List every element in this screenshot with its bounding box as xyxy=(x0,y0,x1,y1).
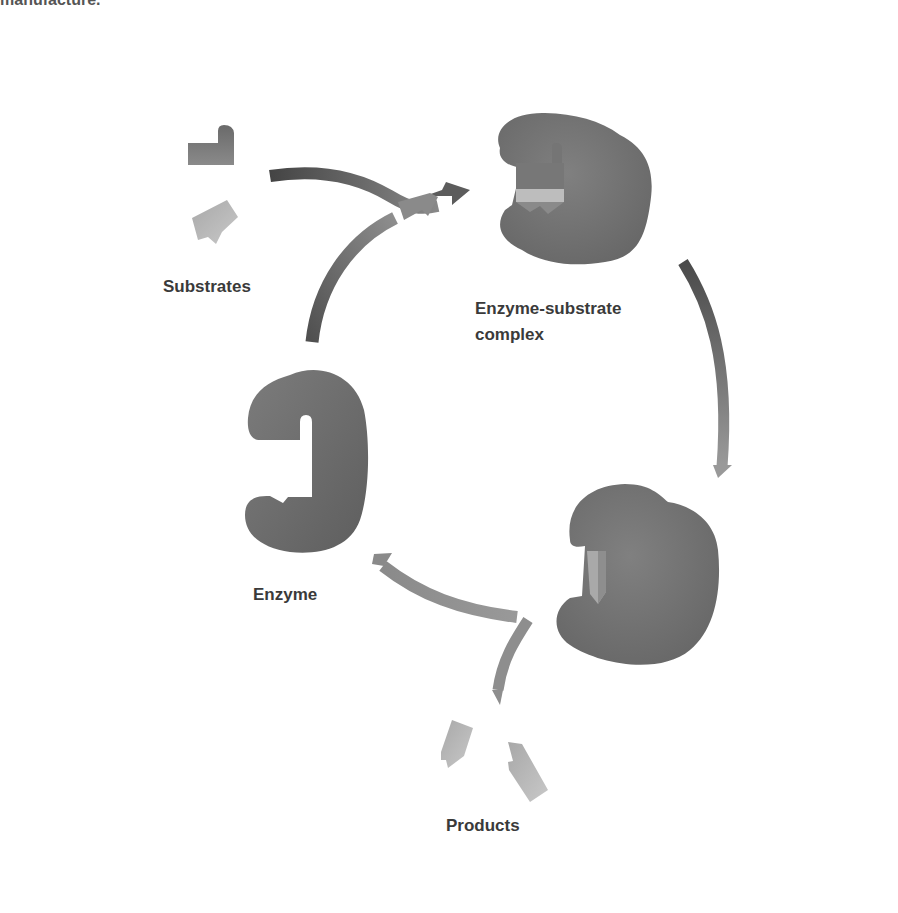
product-notched-piece-icon xyxy=(508,742,548,802)
arrow-enzyme-to-complex xyxy=(312,193,438,342)
product-light-piece-icon xyxy=(441,720,473,768)
arrow-complex-to-product-complex xyxy=(683,262,732,478)
label-substrates: Substrates xyxy=(163,275,251,299)
label-products: Products xyxy=(446,814,520,838)
enzyme-product-complex-shape xyxy=(557,484,720,665)
label-complex-line1: Enzyme-substrate xyxy=(475,297,621,321)
label-enzyme: Enzyme xyxy=(253,583,317,607)
substrate-notched-icon xyxy=(192,200,238,244)
enzyme-cycle-diagram: manufacture. xyxy=(0,0,898,913)
label-complex-line2: complex xyxy=(475,323,544,347)
arrow-product-complex-to-products xyxy=(492,620,528,705)
free-enzyme-shape xyxy=(245,370,368,553)
arrow-substrates-to-complex xyxy=(270,173,470,208)
substrate-l-shape-icon xyxy=(188,125,234,165)
arrow-product-complex-to-enzyme xyxy=(372,553,517,617)
diagram-canvas xyxy=(0,0,898,913)
enzyme-substrate-complex-shape xyxy=(498,113,652,264)
